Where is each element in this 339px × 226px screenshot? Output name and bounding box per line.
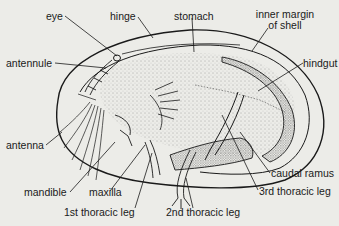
label-hinge: hinge [110, 11, 136, 22]
label-hindgut: hindgut [303, 58, 337, 69]
label-mandible: mandible [24, 187, 67, 198]
label-inner-margin-line2: of shell [248, 20, 322, 31]
label-antennule: antennule [6, 58, 52, 69]
label-maxilla: maxilla [89, 187, 122, 198]
label-first-thoracic-leg: 1st thoracic leg [64, 207, 135, 218]
label-second-thoracic-leg: 2nd thoracic leg [166, 207, 240, 218]
body-region [100, 53, 295, 156]
label-stomach: stomach [174, 11, 214, 22]
label-caudal-ramus: caudal ramus [271, 168, 334, 179]
first-thoracic-leg [145, 140, 160, 178]
antenna [60, 94, 104, 180]
label-third-thoracic-leg: 3rd thoracic leg [259, 186, 331, 197]
label-inner-margin: inner margin of shell [248, 9, 322, 31]
label-antenna: antenna [6, 140, 44, 151]
label-eye: eye [46, 11, 63, 22]
